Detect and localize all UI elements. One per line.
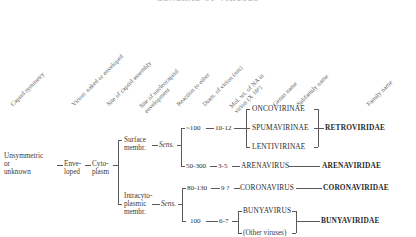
column-header-subfamily-name: Subfamily name bbox=[295, 72, 330, 107]
genus-oncovirinae: ONCOVIRINAE bbox=[252, 105, 305, 113]
header-line1: Family name bbox=[365, 78, 394, 107]
value-molwt-coronaviridae: 9 ? bbox=[221, 184, 229, 192]
virus-classification-figure: GENERAL OF VIRUSES Capsid symmetry Virio… bbox=[0, 0, 416, 237]
connector-enveloped-to-cytoplasm bbox=[85, 165, 91, 166]
connector-intracyto-to-sens bbox=[152, 204, 160, 205]
bracket-tick-other-viruses bbox=[238, 233, 242, 234]
tree-node-enveloped: Enve- loped bbox=[64, 160, 81, 176]
root-line3: unknown bbox=[4, 168, 43, 176]
connector-bunya-to-family bbox=[296, 221, 320, 222]
value-molwt-arenaviridae: 3-5 bbox=[218, 162, 227, 170]
intracyto-line1: Intracyto- bbox=[124, 192, 152, 200]
bracket-tick-surface bbox=[118, 140, 122, 141]
bracket-close-tick-lentivirinae bbox=[314, 147, 318, 148]
connector-arena-molwt-to-genus bbox=[232, 166, 240, 167]
connector-retro-molwt-to-bracket bbox=[234, 128, 246, 129]
connector-bunya-diam-to-molwt bbox=[206, 221, 218, 222]
intracyto-line3: membr. bbox=[124, 208, 152, 216]
tree-node-surface-membrane: Surface membr. bbox=[124, 136, 146, 152]
genus-arenavirus: ARENAVIRUS bbox=[241, 162, 289, 170]
column-header-family-name: Family name bbox=[365, 78, 394, 107]
bracket-bunya-genera bbox=[238, 211, 239, 233]
tree-node-root: Unsymmetric or unknown bbox=[4, 152, 43, 177]
family-arenaviridae: ARENAVIRIDAE bbox=[322, 162, 381, 170]
genus-other-viruses: (Other viruses) bbox=[243, 229, 286, 237]
bracket-cytoplasm-split bbox=[118, 140, 119, 204]
bracket-tick-bunya bbox=[182, 221, 186, 222]
connector-retro-diam-to-molwt bbox=[206, 128, 214, 129]
column-header-capsid-symmetry: Capsid symmetry bbox=[9, 70, 46, 107]
bracket-bunya-close bbox=[296, 211, 297, 233]
bracket-sens-upper-split bbox=[181, 128, 182, 166]
genus-bunyavirus: BUNYAVIRUS bbox=[243, 207, 291, 215]
header-line1: Subfamily name bbox=[295, 72, 330, 107]
connector-arena-genus-to-family bbox=[288, 166, 320, 167]
value-diameter-arenaviridae: 50-300 bbox=[186, 162, 206, 170]
bracket-tick-corona bbox=[182, 188, 186, 189]
cytoplasm-line1: Cyto- bbox=[92, 160, 109, 168]
header-line1: Capsid symmetry bbox=[9, 70, 46, 107]
connector-root-to-enveloped bbox=[57, 165, 63, 166]
value-diameter-retroviridae: ~100 bbox=[186, 124, 200, 132]
family-coronaviridae: CORONAVIRIDAE bbox=[323, 184, 389, 192]
value-diameter-bunyaviridae: 100 bbox=[190, 217, 201, 225]
family-retroviridae: RETROVIRIDAE bbox=[325, 124, 385, 132]
bracket-tick-bunyavirus bbox=[238, 211, 242, 212]
bracket-tick-spumavirinae bbox=[246, 128, 250, 129]
value-molwt-retroviridae: 10-12 bbox=[215, 124, 232, 132]
value-diameter-coronaviridae: 80-130 bbox=[187, 184, 207, 192]
bracket-tick-arena bbox=[181, 166, 185, 167]
genus-coronavirus: CORONAVIRUS bbox=[240, 184, 294, 192]
enveloped-line2: loped bbox=[64, 168, 81, 176]
intracyto-line2: plasmic bbox=[124, 200, 152, 208]
connector-corona-diam-to-molwt bbox=[211, 188, 220, 189]
cytoplasm-line2: plasm bbox=[92, 168, 109, 176]
surface-line1: Surface bbox=[124, 136, 146, 144]
genus-lentivirinae: LENTIVIRINAE bbox=[252, 143, 306, 151]
value-molwt-bunyaviridae: 6-7 bbox=[219, 217, 228, 225]
root-line2: or bbox=[4, 160, 43, 168]
connector-retro-to-family bbox=[318, 128, 324, 129]
bracket-tick-retro bbox=[181, 128, 185, 129]
genus-spumavirinae: SPUMAVIRINAE bbox=[252, 124, 309, 132]
connector-arena-diam-to-molwt bbox=[210, 166, 217, 167]
bracket-tick-lentivirinae bbox=[246, 147, 250, 148]
tree-node-sens-lower: Sens. bbox=[161, 200, 176, 208]
figure-title: GENERAL OF VIRUSES bbox=[0, 0, 416, 3]
bracket-tick-oncovirinae bbox=[246, 109, 250, 110]
family-bunyaviridae: BUNYAVIRIDAE bbox=[321, 217, 379, 225]
root-line1: Unsymmetric bbox=[4, 152, 43, 160]
enveloped-line1: Enve- bbox=[64, 160, 81, 168]
bracket-sens-lower-split bbox=[182, 188, 183, 221]
bracket-tick-intracyto bbox=[118, 204, 122, 205]
header-line1: Genus name bbox=[271, 80, 298, 107]
surface-line2: membr. bbox=[124, 144, 146, 152]
tree-node-sens-upper: Sens. bbox=[159, 141, 174, 149]
column-header-site-nucleocapsid-envelopment: Site of nucleocapsid envelopment bbox=[138, 67, 185, 114]
connector-corona-genus-to-family bbox=[296, 188, 322, 189]
bracket-close-tick-other-viruses bbox=[292, 233, 296, 234]
tree-node-intracytoplasmic-membrane: Intracyto- plasmic membr. bbox=[124, 192, 152, 217]
connector-surface-to-sens bbox=[152, 145, 158, 146]
tree-node-cytoplasm: Cyto- plasm bbox=[92, 160, 109, 176]
